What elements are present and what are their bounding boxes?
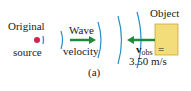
source-label-line2: source (13, 47, 42, 58)
wave-label-line1: Wave (69, 25, 94, 36)
object-label: Object (150, 8, 179, 19)
wavefront-1 (43, 36, 44, 44)
vobs-value: 3.50 m/s (129, 56, 167, 67)
wave-velocity-arrow (70, 36, 96, 44)
source-label-line1: Original (8, 21, 45, 32)
wave-label-line2: velocity (63, 46, 98, 57)
caption: (a) (88, 67, 100, 78)
vobs-equals: = (158, 44, 164, 55)
wavefront-4 (118, 16, 122, 64)
source-dot (34, 37, 40, 43)
wavefront-3 (98, 22, 101, 58)
